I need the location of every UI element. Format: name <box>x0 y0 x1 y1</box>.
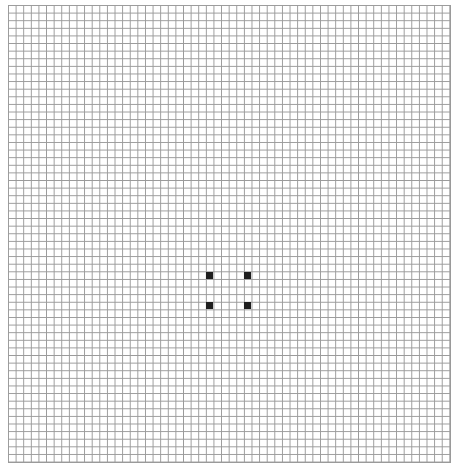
live-cell[interactable] <box>206 302 213 309</box>
game-grid[interactable] <box>8 5 451 463</box>
live-cell[interactable] <box>244 302 251 309</box>
live-cell[interactable] <box>244 272 251 279</box>
live-cell[interactable] <box>206 272 213 279</box>
